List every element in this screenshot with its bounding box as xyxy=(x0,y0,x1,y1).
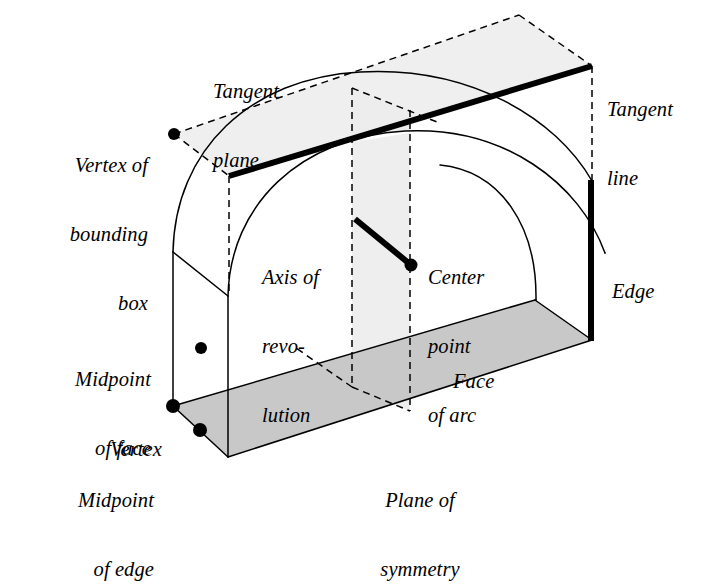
label-plane-of-symmetry-line1: Plane of xyxy=(355,489,485,512)
label-vertex-of-bounding-box-line2: bounding xyxy=(18,223,148,246)
label-tangent-plane: Tangent plane xyxy=(213,34,279,218)
center-point-of-arc-point xyxy=(405,259,418,272)
label-axis-of-revolution: Axis of revo- lution xyxy=(262,220,319,472)
label-face-line1: Face xyxy=(453,370,494,393)
label-center-point-of-arc-line1: Center xyxy=(428,266,484,289)
vertex-point xyxy=(166,399,180,413)
label-tangent-line: Tangent line xyxy=(607,52,673,236)
label-plane-of-symmetry: Plane of symmetry xyxy=(355,443,485,585)
label-midpoint-of-edge: Midpoint of edge xyxy=(14,443,154,585)
label-face: Face xyxy=(453,324,494,439)
label-vertex-of-bounding-box-line1: Vertex of xyxy=(18,154,148,177)
label-tangent-plane-line1: Tangent xyxy=(213,80,279,103)
label-tangent-line-line2: line xyxy=(607,167,673,190)
label-midpoint-of-edge-line1: Midpoint xyxy=(14,489,154,512)
midpoint-of-edge-point xyxy=(193,423,207,437)
label-midpoint-of-face-line1: Midpoint xyxy=(14,368,151,391)
label-plane-of-symmetry-line2: symmetry xyxy=(355,558,485,581)
label-axis-of-revolution-line3: lution xyxy=(262,404,319,427)
vertex-of-bounding-box-point xyxy=(168,128,180,140)
label-tangent-plane-line2: plane xyxy=(213,149,279,172)
label-edge: Edge xyxy=(612,234,655,349)
label-tangent-line-line1: Tangent xyxy=(607,98,673,121)
label-vertex-of-bounding-box-line3: box xyxy=(18,292,148,315)
label-midpoint-of-edge-line2: of edge xyxy=(14,558,154,581)
label-axis-of-revolution-line1: Axis of xyxy=(262,266,319,289)
label-axis-of-revolution-line2: revo- xyxy=(262,335,319,358)
midpoint-of-face-point xyxy=(195,342,207,354)
label-edge-line1: Edge xyxy=(612,280,655,303)
